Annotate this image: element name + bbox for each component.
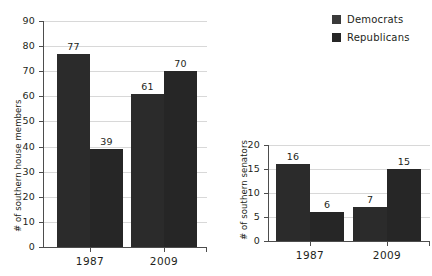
y-axis-tick [39,121,43,122]
y-axis-tick [39,222,43,223]
y-axis-tick [39,172,43,173]
y-axis-tick-label: 90 [9,15,35,26]
y-axis-tick [39,247,43,248]
y-axis-tick-label: 60 [9,90,35,101]
bar [131,94,164,247]
x-axis-line [268,241,430,242]
bar-value-label: 70 [158,58,203,69]
y-axis-tick-label: 70 [9,65,35,76]
x-axis-tick-label: 1987 [280,249,340,261]
x-axis-end-tick [206,248,207,252]
bar-value-label: 15 [381,156,427,167]
bar [387,169,421,241]
gridline [43,21,207,22]
y-axis-tick [39,197,43,198]
y-axis-tick [39,46,43,47]
y-axis-tick-label: 20 [234,139,260,150]
bar [310,212,344,241]
chart-house-members: # of southern house members 010203040506… [0,0,216,276]
bar-value-label: 77 [51,41,96,52]
y-axis-tick [264,145,268,146]
y-axis-line [268,145,269,242]
y-axis-tick [39,147,43,148]
y-axis-tick-label: 15 [234,163,260,174]
x-axis-tick-label: 2009 [134,255,194,267]
y-axis-tick [264,217,268,218]
x-axis-end-tick [429,242,430,246]
x-axis-tick [387,242,388,246]
gridline [268,145,430,146]
y-axis-tick-label: 10 [9,216,35,227]
bar [353,207,387,241]
y-axis-tick [39,21,43,22]
y-axis-tick-label: 80 [9,40,35,51]
chart-house-plot-area: 01020304050607080907739198761702009 [0,0,216,276]
y-axis-tick [264,169,268,170]
bar [57,54,90,247]
bar-value-label: 6 [304,199,350,210]
y-axis-tick-label: 50 [9,115,35,126]
x-axis-tick-label: 1987 [60,255,120,267]
y-axis-tick [264,241,268,242]
y-axis-line [43,21,44,248]
bar [90,149,123,247]
y-axis-tick-label: 5 [234,211,260,222]
bar-value-label: 39 [84,136,129,147]
bar [164,71,197,247]
x-axis-tick [310,242,311,246]
x-axis-tick [90,248,91,252]
y-axis-tick [264,193,268,194]
y-axis-tick-label: 0 [9,241,35,252]
y-axis-tick [39,96,43,97]
figure-canvas: Democrats Republicans # of southern hous… [0,0,432,276]
x-axis-tick-label: 2009 [357,249,417,261]
chart-senate-plot-area: 0510152016619877152009 [216,0,432,276]
bar-value-label: 16 [270,151,316,162]
x-axis-line [43,247,207,248]
x-axis-tick [164,248,165,252]
y-axis-tick-label: 0 [234,235,260,246]
y-axis-tick-label: 30 [9,166,35,177]
y-axis-tick-label: 10 [234,187,260,198]
chart-senate-members: # of southern senators 05101520166198771… [216,0,432,276]
y-axis-tick [39,71,43,72]
y-axis-tick-label: 40 [9,141,35,152]
y-axis-tick-label: 20 [9,191,35,202]
